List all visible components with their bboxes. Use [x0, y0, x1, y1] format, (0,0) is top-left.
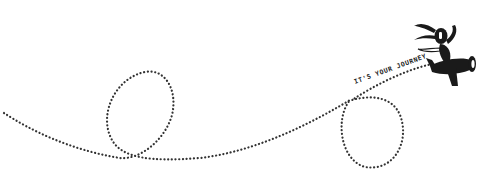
journey-illustration: IT'S YOUR JOURNEY	[0, 0, 504, 181]
journey-path-graphic: IT'S YOUR JOURNEY	[0, 0, 504, 181]
tagline-text: IT'S YOUR JOURNEY	[353, 52, 428, 86]
